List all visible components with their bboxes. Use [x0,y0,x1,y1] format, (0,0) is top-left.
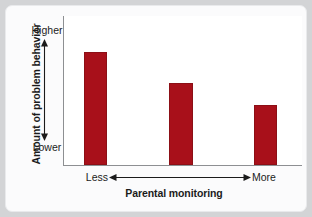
chart-figure: Amount of problem behavior Higher Lower … [0,0,312,217]
x-axis-high-label: More [252,171,288,184]
plot-area [63,16,302,166]
vertical-double-arrow-icon [37,39,52,141]
x-axis-title: Parental monitoring [63,187,285,200]
bar-more [254,105,277,165]
bar-moderate [169,83,193,165]
horizontal-double-arrow-icon [109,170,251,185]
y-axis-low-label: Lower [27,141,67,154]
x-axis-low-label: Less [76,171,108,184]
y-axis-high-label: Higher [27,24,67,37]
bar-less [84,52,107,165]
